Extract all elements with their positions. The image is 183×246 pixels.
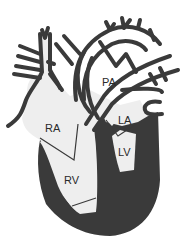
label-lv: LV	[118, 146, 131, 158]
svc-branch-top	[42, 28, 48, 38]
label-rv: RV	[64, 174, 80, 186]
pulmonary-vein-lower	[145, 102, 162, 115]
label-ra: RA	[45, 122, 61, 134]
pulmonary-triangle	[100, 42, 136, 72]
heart-diagram: PA RA LA LV RV	[0, 0, 183, 246]
arch-branch-left	[56, 36, 80, 64]
label-la: LA	[118, 114, 132, 126]
label-pa: PA	[102, 76, 117, 88]
svc-branches-left	[14, 46, 40, 78]
